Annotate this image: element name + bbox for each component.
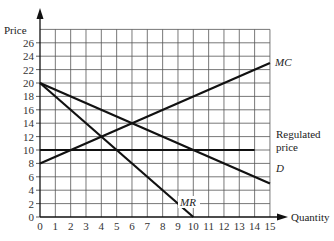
- y-tick-label: 22: [23, 64, 34, 76]
- y-tick-label: 18: [23, 90, 35, 102]
- x-tick-label: 6: [129, 220, 135, 232]
- regulated-price-label-line1: Regulated: [276, 128, 321, 140]
- y-tick-label: 6: [29, 171, 35, 183]
- x-tick-label: 7: [145, 220, 151, 232]
- x-tick-label: 5: [114, 220, 120, 232]
- x-tick-label: 8: [160, 220, 166, 232]
- x-tick-label: 4: [99, 220, 105, 232]
- y-tick-label: 2: [29, 198, 35, 210]
- x-tick-label: 9: [175, 220, 181, 232]
- x-tick-label: 11: [203, 220, 214, 232]
- series-lines: [40, 63, 270, 217]
- monopoly-price-regulation-chart: 0246810121416182022242601234567891011121…: [0, 0, 334, 241]
- axis-ticks: 0246810121416182022242601234567891011121…: [23, 37, 276, 232]
- x-tick-label: 15: [264, 220, 276, 232]
- y-tick-label: 24: [23, 50, 35, 62]
- y-tick-label: 10: [23, 144, 35, 156]
- x-tick-label: 3: [83, 220, 89, 232]
- x-tick-label: 1: [53, 220, 59, 232]
- series-line-d: [40, 83, 270, 184]
- x-tick-label: 13: [234, 220, 246, 232]
- regulated-price-label-line2: price: [276, 141, 298, 153]
- x-tick-label: 10: [188, 220, 200, 232]
- y-tick-label: 16: [23, 104, 35, 116]
- y-axis-label: Price: [4, 24, 27, 36]
- x-tick-label: 2: [68, 220, 74, 232]
- y-tick-label: 0: [29, 211, 35, 223]
- y-tick-label: 8: [29, 157, 35, 169]
- x-axis-label: Quantity: [291, 211, 330, 223]
- mc-label: MC: [274, 56, 292, 68]
- grid: [40, 29, 270, 217]
- x-tick-label: 12: [218, 220, 229, 232]
- y-tick-label: 20: [23, 77, 35, 89]
- y-axis-arrow-icon: [37, 8, 44, 19]
- x-tick-label: 14: [249, 220, 261, 232]
- x-tick-label: 0: [37, 220, 43, 232]
- d-label: D: [275, 162, 284, 174]
- y-tick-label: 4: [29, 184, 35, 196]
- y-tick-label: 26: [23, 37, 35, 49]
- y-tick-label: 14: [23, 117, 35, 129]
- x-axis-arrow-icon: [277, 214, 288, 221]
- y-tick-label: 12: [23, 131, 34, 143]
- mr-label: MR: [179, 196, 196, 208]
